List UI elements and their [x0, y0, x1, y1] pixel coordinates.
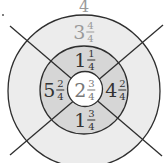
numerator: 2 — [118, 79, 126, 89]
fraction: 1 4 — [87, 49, 95, 72]
fraction: 2 4 — [118, 79, 126, 102]
numerator: 3 — [87, 109, 95, 119]
target-diagram: 4 3 4 4 1 1 4 5 2 4 2 3 4 — [0, 0, 167, 163]
center-value: 2 3 4 — [74, 79, 95, 102]
fraction: 4 4 — [86, 21, 94, 44]
numerator: 3 — [87, 79, 95, 89]
dot-mark — [2, 14, 4, 16]
fraction: 2 4 — [56, 79, 64, 102]
whole-part: 5 — [43, 81, 55, 100]
whole-part: 3 — [73, 23, 85, 42]
whole-part: 1 — [74, 111, 86, 130]
whole-part: 2 — [74, 81, 86, 100]
denominator: 4 — [118, 92, 126, 102]
numerator: 4 — [86, 21, 94, 31]
middle-left-value: 5 2 4 — [43, 79, 64, 102]
middle-right-value: 4 2 4 — [105, 79, 126, 102]
middle-bottom-value: 1 3 4 — [74, 109, 95, 132]
denominator: 4 — [87, 122, 95, 132]
outer-top-value: 3 4 4 — [73, 21, 94, 44]
middle-top-value: 1 1 4 — [74, 49, 95, 72]
numerator: 1 — [87, 49, 95, 59]
top-score-label: 4 — [79, 0, 89, 15]
numerator: 2 — [56, 79, 64, 89]
denominator: 4 — [56, 92, 64, 102]
top-score-text: 4 — [79, 0, 89, 15]
fraction: 3 4 — [87, 109, 95, 132]
fraction: 3 4 — [87, 79, 95, 102]
denominator: 4 — [87, 62, 95, 72]
whole-part: 1 — [74, 51, 86, 70]
denominator: 4 — [87, 92, 95, 102]
whole-part: 4 — [105, 81, 117, 100]
denominator: 4 — [86, 34, 94, 44]
